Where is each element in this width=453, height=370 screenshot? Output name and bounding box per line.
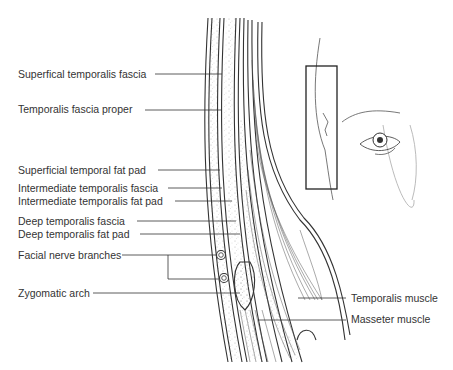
- label-masseter-muscle: Masseter muscle: [351, 313, 430, 325]
- zygomatic-arch-shape: [235, 262, 255, 310]
- label-deep-temporalis-fat-pad: Deep temporalis fat pad: [18, 228, 129, 240]
- label-temporalis-fascia-proper: Temporalis fascia proper: [18, 103, 132, 115]
- label-superficial-temporalis-fascia: Superfical temporalis fascia: [18, 68, 146, 80]
- facial-nerve-branch-upper: [217, 251, 226, 260]
- inset-region-box: [306, 66, 337, 189]
- eye-pupil: [377, 137, 383, 143]
- label-intermediate-temporalis-fat-pad: Intermediate temporalis fat pad: [18, 195, 163, 207]
- label-intermediate-temporalis-fascia: Intermediate temporalis fascia: [18, 182, 158, 194]
- label-facial-nerve-branches: Facial nerve branches: [18, 249, 121, 261]
- label-deep-temporalis-fascia: Deep temporalis fascia: [18, 215, 125, 227]
- face-inset: [315, 38, 416, 207]
- masseter-attachment: [297, 330, 316, 340]
- label-zygomatic-arch: Zygomatic arch: [18, 287, 90, 299]
- facial-nerve-branch-lower: [220, 274, 229, 283]
- label-superficial-temporal-fat-pad: Superficial temporal fat pad: [18, 164, 146, 176]
- label-temporalis-muscle: Temporalis muscle: [351, 292, 438, 304]
